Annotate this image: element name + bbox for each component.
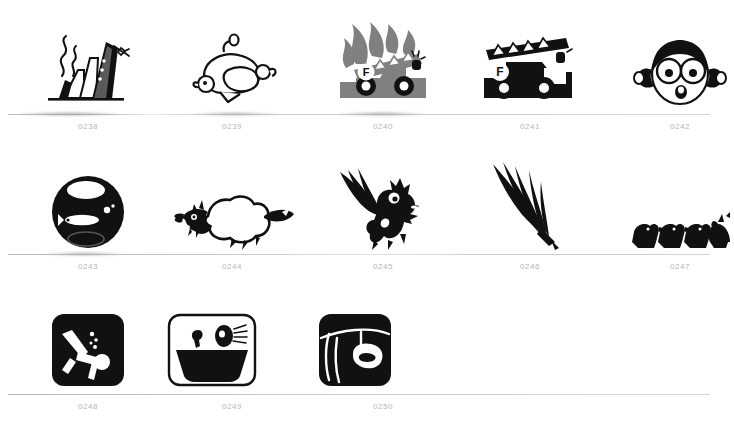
pictogram-row: F (0, 0, 718, 140)
pictogram-cell-0246[interactable] (472, 140, 588, 252)
laundry-line-badge-icon (315, 312, 395, 392)
row-labels: 0248 0249 0250 (0, 398, 718, 418)
pictogram-label-0242: 0242 (670, 122, 690, 131)
pictogram-row-cells (0, 140, 718, 252)
pictogram-label-0241: 0241 (520, 122, 540, 131)
pictogram-cell-0241[interactable]: F (472, 0, 588, 112)
drop-shadow (334, 112, 430, 116)
duck-row-icon (628, 208, 732, 252)
pictogram-label-0243: 0243 (78, 262, 98, 271)
feather-quill-icon (485, 160, 575, 252)
pictogram-row-cells: F (0, 0, 718, 112)
pictogram-cell-0242[interactable] (622, 0, 734, 112)
sinking-ship-icon (42, 26, 134, 112)
row-labels: 0243 0244 0245 0246 0247 (0, 258, 718, 278)
pictogram-label-0245: 0245 (373, 262, 393, 271)
pictogram-cell-0240[interactable]: F (325, 0, 443, 112)
pictogram-cell-0243[interactable] (28, 140, 148, 252)
row-labels: 0238 0239 0240 0241 0242 (0, 118, 718, 138)
pictogram-cell-0238[interactable] (28, 0, 148, 112)
pictogram-label-0246: 0246 (520, 262, 540, 271)
bathtub-badge-icon (166, 312, 258, 392)
fishbowl-icon (48, 170, 128, 252)
pictogram-label-0247: 0247 (670, 262, 690, 271)
pictogram-cell-0249[interactable] (158, 280, 266, 392)
pictogram-label-0250: 0250 (373, 402, 393, 411)
drop-shadow (42, 252, 126, 256)
pictogram-row: 0243 0244 0245 0246 0247 (0, 140, 718, 280)
pictogram-label-0238: 0238 (78, 122, 98, 131)
row-separator (8, 394, 710, 395)
fire-truck-icon: F (478, 32, 582, 112)
pictogram-cell-0239[interactable] (178, 0, 290, 112)
pictogram-label-0240: 0240 (373, 122, 393, 131)
pictogram-label-0248: 0248 (78, 402, 98, 411)
pictogram-cell-0245[interactable] (325, 140, 443, 252)
svg-text:F: F (363, 66, 370, 78)
svg-text:F: F (496, 65, 503, 79)
sheep-icon (172, 186, 296, 252)
pictogram-label-0249: 0249 (222, 402, 242, 411)
winged-cat-icon (334, 166, 434, 252)
pictogram-row-cells (0, 280, 718, 392)
scuba-diver-badge-icon (48, 312, 128, 392)
pictogram-cell-0247[interactable] (622, 140, 734, 252)
drop-shadow (188, 112, 280, 116)
pictogram-label-0239: 0239 (222, 122, 242, 131)
pictogram-label-0244: 0244 (222, 262, 242, 271)
pictogram-row: 0248 0249 0250 (0, 280, 718, 420)
pictogram-cell-0250[interactable] (298, 280, 412, 392)
pictogram-cell-0248[interactable] (28, 280, 148, 392)
girl-face-icon (630, 34, 730, 112)
drop-shadow (14, 112, 124, 116)
pictogram-cell-0244[interactable] (166, 140, 302, 252)
burning-fire-truck-icon: F (330, 20, 438, 112)
roast-turkey-icon (184, 32, 284, 112)
